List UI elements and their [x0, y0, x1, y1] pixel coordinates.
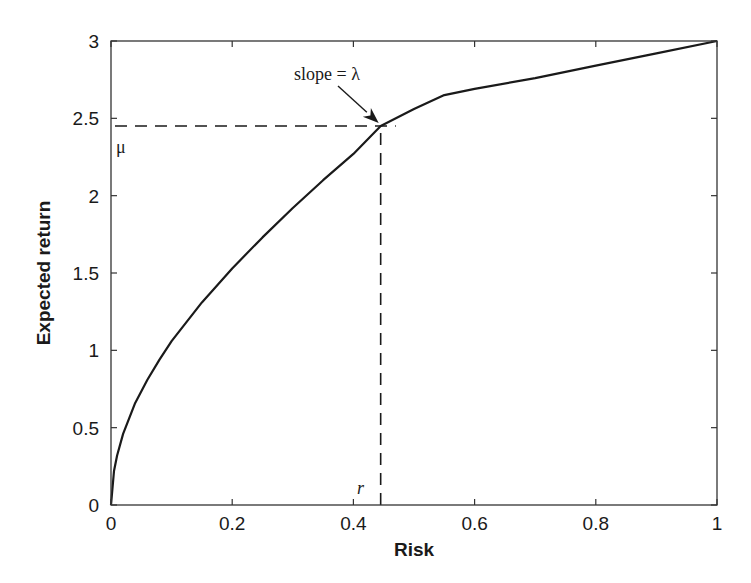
x-tick-label: 0.6	[461, 513, 487, 534]
r-label: r	[357, 478, 365, 498]
y-axis-ticks: 00.511.522.53	[73, 31, 717, 516]
x-tick-label: 0	[106, 513, 117, 534]
y-tick-label: 1	[88, 340, 99, 361]
y-tick-label: 0	[88, 495, 99, 516]
arrow-line	[338, 86, 367, 112]
y-tick-label: 1.5	[73, 263, 99, 284]
axes-box	[111, 41, 717, 505]
y-tick-label: 0.5	[73, 418, 99, 439]
x-axis-ticks: 00.20.40.60.81	[106, 41, 723, 534]
data-series	[111, 41, 717, 505]
slope-annotation: slope = λ	[294, 64, 360, 84]
annotations: slope = λ μ r	[116, 64, 379, 498]
chart: 00.20.40.60.81 00.511.522.53 slope = λ μ…	[0, 0, 751, 583]
y-axis-title: Expected return	[33, 201, 54, 346]
x-tick-label: 0.4	[340, 513, 367, 534]
chart-canvas: 00.20.40.60.81 00.511.522.53 slope = λ μ…	[0, 0, 751, 583]
x-axis-title: Risk	[394, 539, 435, 560]
mu-label: μ	[116, 137, 126, 157]
x-tick-label: 0.8	[583, 513, 609, 534]
y-tick-label: 2	[88, 186, 99, 207]
x-tick-label: 0.2	[219, 513, 245, 534]
x-tick-label: 1	[712, 513, 723, 534]
frontier-curve	[111, 41, 717, 505]
y-tick-label: 3	[88, 31, 99, 52]
reference-lines	[115, 126, 396, 505]
plot-frame	[111, 41, 717, 505]
y-tick-label: 2.5	[73, 108, 99, 129]
